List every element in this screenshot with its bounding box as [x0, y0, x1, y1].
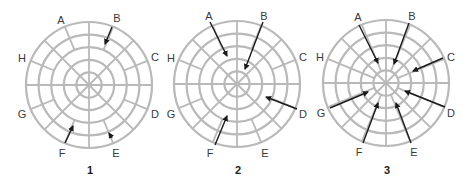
sector-label-e: E [410, 146, 417, 158]
sector-label-b: B [408, 10, 415, 22]
sector-label-a: A [205, 10, 213, 22]
sector-label-f: F [356, 146, 363, 158]
sub-spoke [31, 99, 54, 109]
sub-spoke [362, 95, 381, 142]
diagram-number: 3 [384, 164, 390, 176]
sub-spoke [251, 119, 261, 142]
sector-label-a: A [354, 11, 362, 23]
arrow-c-icon [413, 58, 443, 71]
sector-label-g: G [18, 108, 27, 120]
sub-spoke [31, 61, 54, 71]
diagram-number: 2 [235, 164, 241, 176]
arrow-f-icon [65, 126, 73, 143]
target-diagram-1: ABCDEFGH1 [18, 12, 159, 176]
sub-spoke [398, 59, 445, 78]
sub-spoke [328, 88, 375, 107]
arrow-b-icon [394, 23, 409, 64]
diagram-number: 1 [87, 164, 93, 176]
sector-label-b: B [260, 10, 267, 22]
arrow-d-icon [405, 91, 445, 107]
sector-label-d: D [299, 108, 307, 120]
arrow-e-icon [396, 103, 411, 143]
sector-label-a: A [57, 14, 65, 26]
sub-spoke [179, 60, 202, 70]
sector-label-g: G [317, 107, 326, 119]
sector-label-c: C [151, 51, 159, 63]
sector-label-b: B [113, 12, 120, 24]
sector-label-h: H [18, 52, 26, 64]
sector-label-h: H [167, 52, 175, 64]
target-diagram-2: ABCDEFGH2 [167, 10, 307, 176]
sector-label-d: D [447, 107, 455, 119]
target-diagrams-figure: ABCDEFGH1 ABCDEFGH2 ABCDEFGH3 [0, 0, 472, 181]
sector-label-c: C [299, 51, 307, 63]
arrow-b-icon [105, 27, 112, 44]
sector-label-e: E [112, 147, 119, 159]
sector-label-h: H [316, 51, 324, 63]
sub-spoke [65, 27, 75, 50]
sector-label-c: C [447, 51, 455, 63]
sector-label-f: F [59, 147, 66, 159]
sector-label-f: F [207, 147, 214, 159]
sub-spoke [272, 60, 295, 70]
arrow-a-icon [359, 25, 378, 63]
sector-label-d: D [151, 108, 159, 120]
sector-label-g: G [167, 108, 176, 120]
sub-spoke [179, 98, 202, 108]
target-diagram-3: ABCDEFGH3 [316, 10, 455, 176]
sub-spoke [362, 25, 381, 72]
sub-spoke [124, 61, 147, 71]
sub-spoke [328, 59, 375, 78]
sub-spoke [124, 99, 147, 109]
arrow-f-icon [363, 103, 378, 143]
sub-spoke [103, 120, 113, 143]
sub-spoke [103, 27, 113, 50]
sector-label-e: E [261, 147, 268, 159]
